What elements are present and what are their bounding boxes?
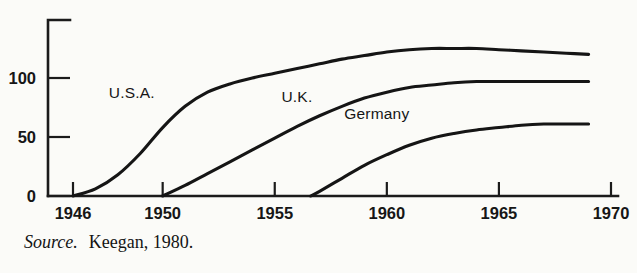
source-note: Source.Keegan, 1980.: [24, 232, 193, 253]
chart-series: [73, 48, 589, 196]
x-axis-tick-label: 1970: [593, 204, 630, 222]
series-inline-labels: U.S.A.U.K.Germany: [109, 84, 410, 122]
x-axis-tick-label: 1965: [481, 204, 518, 222]
series-line-germany: [311, 124, 589, 196]
y-axis-tick-label: 0: [27, 187, 36, 205]
source-label: Source.: [24, 232, 78, 252]
source-citation: Keegan, 1980.: [89, 232, 193, 252]
x-axis-tick-label: 1955: [256, 204, 293, 222]
series-line-u-s-a: [73, 48, 589, 196]
curve-label-u-s-a: U.S.A.: [109, 84, 155, 101]
x-axis-tick-labels: 194619501955196019651970: [55, 204, 630, 222]
curve-label-u-k: U.K.: [281, 88, 312, 105]
chart-axes: [48, 20, 618, 196]
y-axis-tick-label: 100: [8, 69, 36, 87]
line-chart-figure: 050100 194619501955196019651970 U.S.A.U.…: [0, 0, 637, 225]
x-axis-tick-label: 1950: [144, 204, 181, 222]
chart-canvas: 050100 194619501955196019651970 U.S.A.U.…: [0, 0, 637, 225]
y-axis-line: [48, 20, 70, 196]
figure-page: 050100 194619501955196019651970 U.S.A.U.…: [0, 0, 637, 273]
series-line-u-k: [163, 81, 589, 196]
y-axis-tick-labels: 050100: [8, 69, 36, 205]
y-axis-tick-label: 50: [18, 128, 36, 146]
x-axis-tick-label: 1960: [368, 204, 405, 222]
curve-label-germany: Germany: [344, 105, 409, 122]
x-axis-tick-label: 1946: [55, 204, 92, 222]
